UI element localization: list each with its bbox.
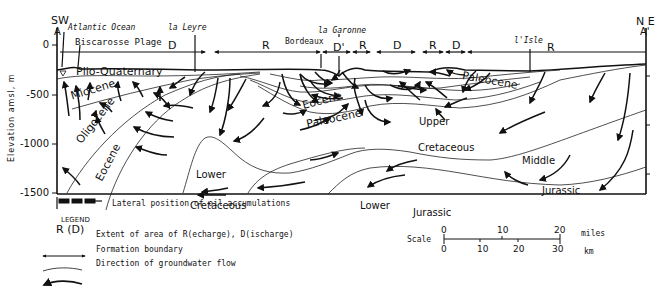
- scale-bar-graphics: [444, 234, 560, 244]
- place-l-isle: l'Isle: [514, 37, 543, 45]
- formation-plio-quaternary: Plio-Quaternary: [76, 66, 163, 77]
- formation-middle-jurassic-1: Middle: [522, 156, 555, 166]
- formation-upper-cretaceous-2: Cretaceous: [418, 143, 474, 153]
- place-la-garonne: la Garonne: [318, 27, 366, 35]
- oil-accumulations-bar: [57, 197, 102, 209]
- endpoint-left-direction: SW: [51, 15, 69, 26]
- formation-lower-cretaceous-1: Lower: [196, 170, 226, 180]
- legend-item-groundwater-flow: Direction of groundwater flow: [96, 260, 236, 268]
- place-bordeaux: Bordeaux: [285, 38, 324, 46]
- scale-miles-unit: miles: [581, 230, 605, 238]
- zone-label-d-4: D: [452, 40, 460, 51]
- place-biscarosse-plage: Biscarosse Plage: [75, 38, 162, 47]
- endpoint-right-label: A': [640, 27, 650, 37]
- scale-km-unit: km: [584, 248, 594, 256]
- axis-title: Elevation amsl, m: [8, 82, 16, 162]
- scale-miles-20: 20: [554, 226, 565, 235]
- axis-tick-1500: -1500: [9, 188, 49, 198]
- legend-item-recharge-discharge: Extent of area of R(echarge), D(ischarge…: [96, 231, 293, 239]
- formation-middle-jurassic-2: Jurassic: [542, 186, 580, 196]
- scale-miles-10: 10: [497, 226, 508, 235]
- scale-miles-0: 0: [441, 226, 447, 235]
- scale-km-10: 10: [477, 245, 488, 254]
- place-la-leyre: la Leyre: [168, 24, 207, 32]
- zone-label-r-3: R: [429, 40, 437, 51]
- cross-section-diagram: SW A N E A' Atlantic Ocean Biscarosse Pl…: [0, 0, 666, 303]
- zone-label-r-2: R: [359, 40, 367, 51]
- formation-upper-cretaceous-1: Upper: [419, 117, 449, 127]
- scale-km-0: 0: [441, 245, 447, 254]
- legend-symbol-label: R (D): [56, 224, 84, 235]
- scale-km-20: 20: [513, 245, 524, 254]
- formation-lower-jurassic-1: Lower: [360, 201, 390, 211]
- oil-accumulations-label: Lateral position of oil accumulations: [112, 200, 290, 208]
- zone-label-r-1: R: [262, 40, 270, 51]
- formation-lower-jurassic-2: Jurassic: [413, 208, 451, 218]
- legend-item-formation-boundary: Formation boundary: [96, 246, 183, 254]
- zone-label-d-2: D': [333, 42, 345, 53]
- zone-label-r-4: R: [547, 42, 555, 53]
- axis-tick-0: 0: [9, 40, 49, 50]
- endpoint-left-label: A: [54, 27, 61, 37]
- place-atlantic-ocean: Atlantic Ocean: [68, 24, 135, 32]
- zone-label-d-1: D: [168, 40, 176, 51]
- legend-symbols: [43, 256, 85, 285]
- scale-km-30: 30: [552, 245, 563, 254]
- zone-label-d-3: D: [393, 40, 401, 51]
- scale-label: Scale: [407, 236, 431, 244]
